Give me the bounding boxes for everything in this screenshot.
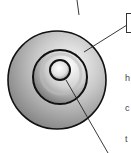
text-line: t: [125, 134, 131, 144]
text-line: c: [125, 103, 131, 113]
text-line: h: [125, 73, 131, 83]
concentric-layer-diagram: [0, 0, 131, 153]
callout-label-box: [126, 13, 131, 33]
side-description-text: h c t s i r t c c: [125, 52, 131, 153]
inner-core: [50, 60, 70, 80]
middle-callout-line: [84, 25, 127, 52]
outer-callout-line: [77, 0, 79, 15]
